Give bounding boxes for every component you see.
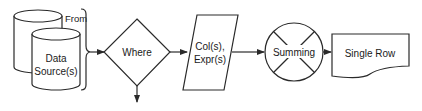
columns-parallelogram [183,15,238,90]
data-source-label-line2: Source(s) [34,66,77,77]
flowchart-diagram: Data Source(s) From Where Col(s), Expr(s… [0,0,422,111]
single-row-label: Single Row [345,48,396,59]
columns-label-line2: Expr(s) [194,54,226,65]
data-source-label-line1: Data [45,53,67,64]
summing-label: Summing [273,47,315,58]
where-label: Where [122,47,152,58]
from-label: From [65,13,87,24]
columns-label-line1: Col(s), [195,41,224,52]
